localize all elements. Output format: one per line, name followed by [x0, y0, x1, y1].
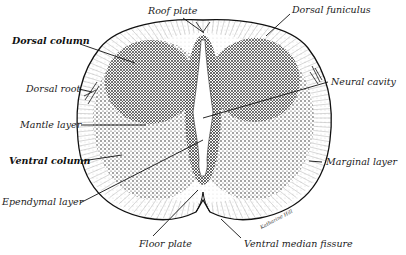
- label-dorsal-funiculus: Dorsal funiculus: [292, 5, 371, 15]
- label-marginal-layer: Marginal layer: [326, 157, 397, 167]
- leader-ventral-median-fissure: [221, 219, 241, 238]
- label-dorsal-root: Dorsal root: [26, 84, 80, 94]
- label-dorsal-column: Dorsal column: [12, 36, 90, 46]
- label-roof-plate: Roof plate: [148, 6, 197, 16]
- label-neural-cavity: Neural cavity: [331, 77, 396, 87]
- label-ependymal-layer: Ependymal layer: [2, 197, 83, 207]
- label-floor-plate: Floor plate: [139, 239, 192, 249]
- label-ventral-median-fissure: Ventral median fissure: [244, 239, 353, 249]
- dorsal-column-dense-right: [210, 38, 300, 122]
- label-ventral-column: Ventral column: [9, 156, 91, 166]
- label-mantle-layer: Mantle layer: [20, 120, 81, 130]
- dorsal-column-dense: [105, 40, 195, 124]
